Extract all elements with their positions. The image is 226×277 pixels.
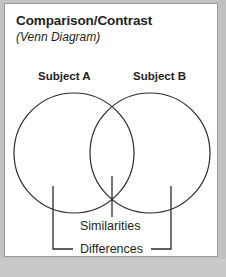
page-edge-shading-right xyxy=(219,0,226,277)
page-backdrop: Comparison/Contrast (Venn Diagram) Subje… xyxy=(0,0,226,277)
venn-circle-left xyxy=(14,93,134,213)
page-edge-shading-bottom xyxy=(0,259,226,277)
worksheet-card: Comparison/Contrast (Venn Diagram) Subje… xyxy=(4,3,218,257)
differences-bracket-right xyxy=(151,186,171,249)
differences-bracket-left xyxy=(53,186,73,249)
venn-region-label-differences: Differences xyxy=(80,242,143,256)
venn-circle-right xyxy=(90,93,210,213)
venn-region-label-similarities: Similarities xyxy=(80,219,140,233)
